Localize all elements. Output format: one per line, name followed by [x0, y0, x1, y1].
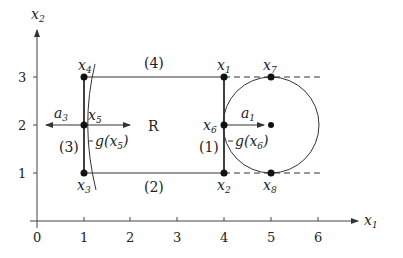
x-ticks: [84, 217, 318, 221]
x-tick-6: 6: [314, 230, 322, 245]
point-x3: [81, 170, 88, 177]
x-tick-5: 5: [267, 230, 275, 245]
y-tick-2: 2: [18, 118, 26, 133]
y-ticks: [33, 77, 37, 173]
label-x7: x7: [263, 57, 277, 75]
label-a3: a3: [54, 105, 68, 123]
label-x1: x1: [217, 57, 231, 75]
label-x6: x6: [203, 117, 217, 135]
label-g-x5: g(x5): [95, 133, 129, 151]
point-x6: [221, 122, 228, 129]
y-tick-1: 1: [18, 166, 26, 181]
region-label: R: [148, 118, 159, 134]
x-tick-3: 3: [173, 230, 181, 245]
y-tick-3: 3: [18, 70, 26, 85]
y-axis-label: x2: [31, 6, 45, 24]
left-curve: [88, 64, 96, 190]
circle-center: [268, 122, 274, 128]
label-x5: x5: [88, 107, 102, 125]
label-x2: x2: [217, 177, 231, 195]
point-x5: [81, 122, 88, 129]
point-x8: [268, 170, 275, 177]
label-g-x6: g(x6): [235, 133, 269, 151]
diagram-canvas: x1 x2 0 1 2 3 4 5 6 1 2 3: [0, 0, 403, 258]
edge-label-2: (2): [144, 179, 164, 195]
point-x2: [221, 170, 228, 177]
x-tick-1: 1: [80, 230, 88, 245]
label-x4: x4: [78, 57, 92, 75]
x-tick-0: 0: [33, 230, 41, 245]
x-tick-4: 4: [220, 230, 228, 245]
label-x3: x3: [77, 177, 91, 195]
label-x8: x8: [263, 177, 277, 195]
label-a1: a1: [241, 105, 255, 123]
edge-label-1: (1): [199, 139, 219, 155]
x-tick-2: 2: [126, 230, 134, 245]
edge-label-4: (4): [144, 55, 164, 71]
x-axis-label: x1: [364, 212, 378, 230]
edge-label-3: (3): [59, 139, 79, 155]
